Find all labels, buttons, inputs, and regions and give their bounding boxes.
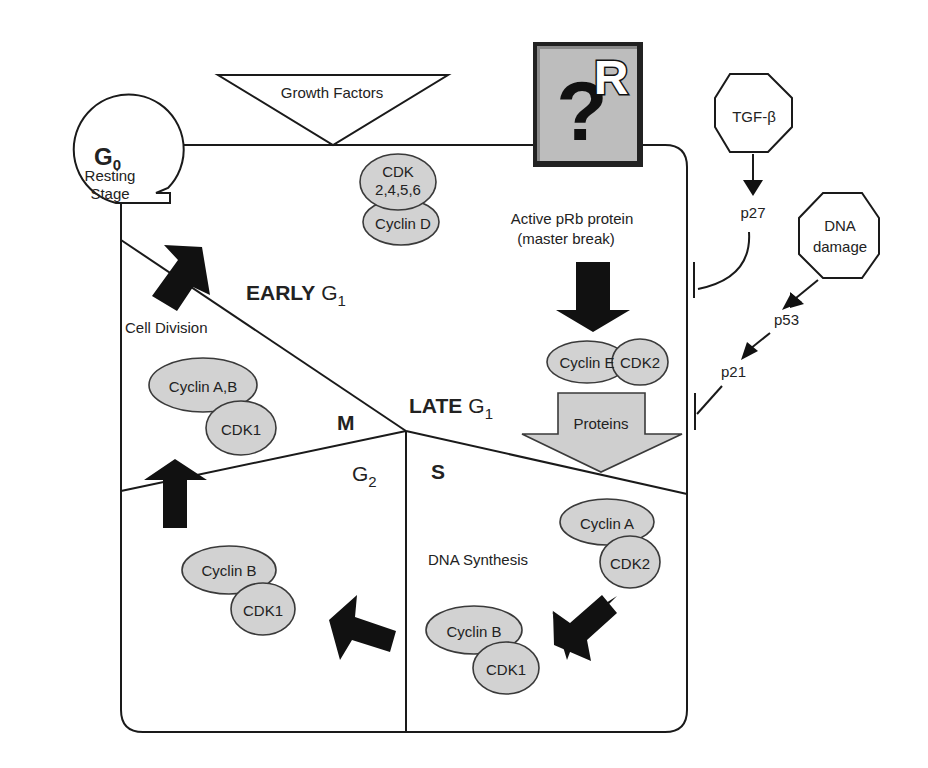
master-break-label: (master break) [517, 230, 615, 247]
growth-factors-triangle: Growth Factors [218, 75, 448, 145]
cdk2-label: CDK2 [610, 555, 650, 572]
g2-label: G2 [352, 462, 377, 490]
cell-division-label: Cell Division [125, 319, 208, 336]
restriction-r-letter: R [594, 51, 629, 104]
dna-damage-octagon: DNA damage [799, 193, 879, 278]
down-left-arrow-body [553, 595, 617, 661]
dna-to-p53-line [796, 280, 818, 298]
complex-cdk-cyclin-d: CDK 2,4,5,6 Cyclin D [360, 154, 439, 245]
cyclin-b-label: Cyclin B [201, 562, 256, 579]
p27-label: p27 [740, 204, 765, 221]
complex-cyclin-b-cdk1-g2: Cyclin B CDK1 [182, 546, 295, 635]
g0-resting-stage-bubble: G0 Resting Stage [74, 94, 184, 203]
active-prb-label: Active pRb protein [511, 210, 634, 227]
complex-cyclin-b-cdk1-s: Cyclin B CDK1 [426, 606, 539, 694]
complex-cyclin-a-cdk2: Cyclin A CDK2 [560, 499, 660, 588]
left-arrow-icon [329, 595, 396, 660]
cell-division-arrow-icon [152, 245, 210, 311]
dna-label: DNA [824, 217, 856, 234]
p21-label: p21 [721, 363, 746, 380]
cdk1-label: CDK1 [486, 661, 526, 678]
proteins-arrow: Proteins [522, 393, 682, 472]
cdk-numbers-label: 2,4,5,6 [375, 181, 421, 198]
cyclin-d-label: Cyclin D [375, 215, 431, 232]
cyclin-e-label: Cyclin E [559, 354, 614, 371]
up-arrow-icon [144, 459, 207, 528]
tgf-beta-label: TGF-β [732, 108, 776, 125]
p21-inhibition-line [697, 386, 722, 414]
m-phase-label: M [337, 411, 355, 434]
p27-inhibition-curve [698, 232, 749, 289]
down-arrow-icon [556, 262, 630, 332]
proteins-label: Proteins [573, 415, 628, 432]
tgf-beta-octagon: TGF-β [715, 74, 792, 152]
g0-resting: Resting [85, 167, 136, 184]
early-g1-label: EARLYG1 [246, 281, 346, 309]
complex-cyclin-e-cdk2: Cyclin E CDK2 [547, 339, 668, 385]
p53-to-p21-line [750, 333, 770, 349]
cdk2-label: CDK2 [620, 354, 660, 371]
cdk-label: CDK [382, 163, 414, 180]
cdk1-label: CDK1 [243, 602, 283, 619]
g0-stage: Stage [90, 185, 129, 202]
cyclin-b-label: Cyclin B [446, 623, 501, 640]
late-g1-label: LATEG1 [409, 394, 493, 422]
p53-label: p53 [774, 311, 799, 328]
arrowhead-icon [743, 180, 763, 196]
cyclin-ab-label: Cyclin A,B [169, 378, 237, 395]
cell-cycle-diagram: G0 Resting Stage Growth Factors ? R CDK … [0, 0, 928, 768]
dna-synthesis-label: DNA Synthesis [428, 551, 528, 568]
growth-factors-label: Growth Factors [281, 84, 384, 101]
restriction-point-box: ? R [533, 42, 643, 167]
complex-cyclin-ab-cdk1: Cyclin A,B CDK1 [149, 358, 276, 455]
cyclin-a-label: Cyclin A [580, 515, 634, 532]
cdk1-label: CDK1 [221, 421, 261, 438]
s-phase-label: S [431, 460, 445, 483]
damage-label: damage [813, 238, 867, 255]
